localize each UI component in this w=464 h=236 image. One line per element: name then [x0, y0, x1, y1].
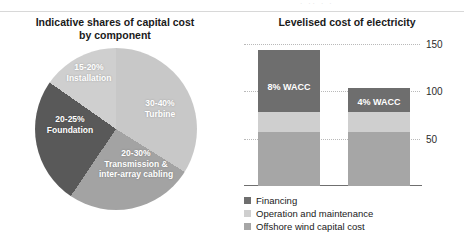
pie-slice-installation-pct: 15-20% [49, 62, 129, 73]
bar-label-4pct-wacc: 4% WACC [348, 97, 410, 107]
pie-chart: 30-40% Turbine 20-30% Transmission & int… [35, 48, 197, 210]
legend-label-offshore-wind-capital-cost: Offshore wind capital cost [256, 220, 365, 233]
pie-slice-turbine-name: Turbine [121, 109, 199, 120]
bar-4pct-wacc[interactable]: 4% WACC [348, 88, 410, 186]
pie-slice-foundation-pct: 20-25% [29, 114, 111, 125]
pie-slice-turbine-pct: 30-40% [121, 98, 199, 109]
legend-item-offshore-wind-capital-cost[interactable]: Offshore wind capital cost [244, 220, 444, 233]
figure-root: · ·· · · Indicative shares of capital co… [0, 0, 464, 236]
pie-slice-label-foundation: 20-25% Foundation [29, 114, 111, 135]
pie-chart-panel: Indicative shares of capital cost by com… [0, 0, 230, 236]
pie-slice-label-transmission: 20-30% Transmission & inter-array cablin… [73, 148, 199, 180]
bar-label-8pct-wacc: 8% WACC [258, 82, 320, 92]
bar-segment-financing-1 [258, 50, 320, 112]
legend-item-operation-maintenance[interactable]: Operation and maintenance [244, 207, 444, 220]
bar-segment-om-2 [348, 112, 410, 132]
y-tick-50: 50 [426, 133, 456, 144]
gridline-150 [244, 44, 420, 45]
y-tick-150: 150 [426, 38, 456, 49]
legend-label-financing: Financing [256, 194, 297, 207]
legend-swatch-operation-maintenance-icon [244, 210, 251, 217]
pie-chart-title-line1: Indicative shares of capital cost [0, 16, 230, 29]
bar-8pct-wacc[interactable]: 8% WACC [258, 50, 320, 186]
pie-slice-transmission-name-line1: Transmission & [73, 159, 199, 170]
pie-chart-title: Indicative shares of capital cost by com… [0, 16, 230, 42]
legend-label-operation-maintenance: Operation and maintenance [256, 207, 373, 220]
pie-slice-transmission-pct: 20-30% [73, 148, 199, 159]
bar-segment-capex-1 [258, 132, 320, 186]
bar-segment-om-1 [258, 112, 320, 132]
y-tick-100: 100 [426, 86, 456, 97]
bar-chart-plot-area: 150 100 50 8% WACC 4% WACC [244, 34, 404, 186]
legend-item-financing[interactable]: Financing [244, 194, 444, 207]
pie-slice-transmission-name-line2: inter-array cabling [73, 169, 199, 180]
pie-slice-installation-name: Installation [49, 73, 129, 84]
legend-swatch-offshore-wind-capital-cost-icon [244, 223, 251, 230]
pie-slice-label-turbine: 30-40% Turbine [121, 98, 199, 119]
bar-chart-title: Levelised cost of electricity [230, 16, 464, 29]
pie-slice-label-installation: 15-20% Installation [49, 62, 129, 83]
pie-chart-title-line2: by component [0, 29, 230, 42]
bar-chart-legend: Financing Operation and maintenance Offs… [244, 194, 444, 233]
bar-segment-capex-2 [348, 132, 410, 186]
legend-swatch-financing-icon [244, 197, 251, 204]
pie-slice-foundation-name: Foundation [29, 125, 111, 136]
